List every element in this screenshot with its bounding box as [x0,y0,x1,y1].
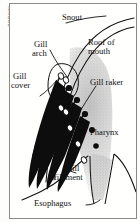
label-roof-of-mouth-line2: mouth [88,47,110,56]
label-gill-raker: Gill raker [90,78,123,87]
label-gill-filament-line2: filament [54,173,83,182]
label-pharynx: Pharynx [90,128,119,137]
label-esophagus: Esophagus [34,199,71,208]
esophagus-right-body [114,154,136,192]
label-gill-arch-line2: arch [32,49,47,58]
gill-anatomy-illustration [10,4,136,218]
figure-frame: Snout Roof of mouth Gill arch Gill cover… [9,3,137,219]
label-snout: Snout [62,13,82,22]
label-gill-cover-line2: cover [11,81,30,90]
figure-page: GODKIN [0,0,140,222]
